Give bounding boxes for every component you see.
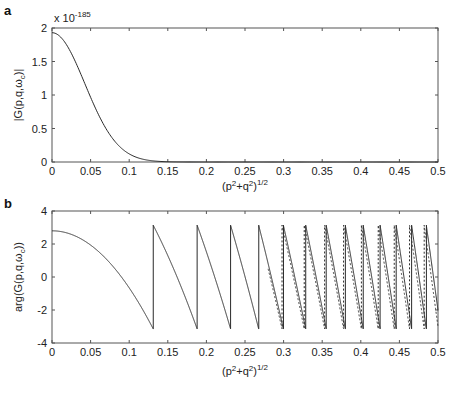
panel-a-y-exponent: x 10-185 (54, 10, 91, 24)
panel-b-x-axis-label: (p2+q2)1/2 (222, 363, 269, 377)
x-tick-label: 0.4 (353, 346, 368, 358)
y-tick-label: 2 (41, 22, 47, 34)
x-tick-label: 0.45 (389, 165, 410, 177)
y-tick-label: 2 (41, 238, 47, 250)
x-tick-label: 0.15 (157, 346, 178, 358)
x-tick-label: 0.35 (311, 165, 332, 177)
panel-b-y-axis-label: arg(G(p,q,ωc)) (12, 242, 27, 312)
panel-a-magnitude-curve (52, 33, 438, 162)
panel-a-axes-box (52, 28, 438, 162)
x-tick-label: 0 (49, 165, 55, 177)
panel-a-letter: a (4, 3, 12, 18)
x-tick-label: 0.1 (122, 346, 137, 358)
x-tick-label: 0.25 (234, 346, 255, 358)
x-tick-label: 0 (49, 346, 55, 358)
y-tick-label: 0 (41, 271, 47, 283)
x-tick-label: 0.25 (234, 165, 255, 177)
panel-b-letter: b (4, 196, 12, 211)
panel-b-ticks: 00.050.10.150.20.250.30.350.40.450.5-4-2… (37, 205, 445, 358)
x-tick-label: 0.05 (80, 165, 101, 177)
x-tick-label: 0.4 (353, 165, 368, 177)
x-tick-label: 0.15 (157, 165, 178, 177)
y-tick-label: -2 (37, 304, 47, 316)
x-tick-label: 0.35 (311, 346, 332, 358)
panel-a-magnitude-plot: a x 10-185 00.050.10.150.20.250.30.350.4… (4, 3, 446, 192)
panel-a-y-axis-label: |G(p,q,ωc)| (12, 69, 27, 122)
y-tick-label: -4 (37, 337, 47, 349)
x-tick-label: 0.1 (122, 165, 137, 177)
y-tick-label: 1 (41, 89, 47, 101)
panel-b-phase-curve-dashed (268, 225, 438, 329)
y-tick-label: 0.5 (32, 123, 47, 135)
y-tick-label: 1.5 (32, 56, 47, 68)
x-tick-label: 0.2 (199, 346, 214, 358)
x-tick-label: 0.5 (430, 346, 445, 358)
x-tick-label: 0.45 (389, 346, 410, 358)
panel-b-phase-curve-solid (52, 225, 438, 329)
panel-b-phase-plot: b 00.050.10.150.20.250.30.350.40.450.5-4… (4, 196, 446, 377)
y-tick-label: 0 (41, 156, 47, 168)
x-tick-label: 0.5 (430, 165, 445, 177)
x-tick-label: 0.05 (80, 346, 101, 358)
y-tick-label: 4 (41, 205, 47, 217)
panel-a-x-axis-label: (p2+q2)1/2 (222, 178, 269, 192)
panel-a-ticks: 00.050.10.150.20.250.30.350.40.450.500.5… (32, 22, 446, 177)
figure: a x 10-185 00.050.10.150.20.250.30.350.4… (0, 0, 460, 393)
x-tick-label: 0.3 (276, 165, 291, 177)
x-tick-label: 0.2 (199, 165, 214, 177)
x-tick-label: 0.3 (276, 346, 291, 358)
